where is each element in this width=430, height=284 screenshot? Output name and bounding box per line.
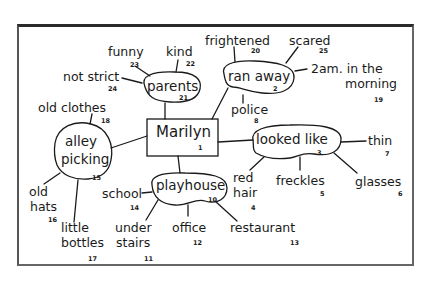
leaf-restaurant: restaurant	[230, 221, 295, 234]
leaf-glasses: glasses	[355, 175, 401, 188]
leaf-under-stairs-line1: under	[115, 221, 152, 234]
leaf-scared: scared	[289, 34, 331, 47]
leaf-thin: thin	[368, 134, 392, 147]
leaf-old-clothes-number: 18	[101, 118, 110, 125]
node-alley-picking-number: 15	[92, 175, 101, 182]
leaf-2am-number: 19	[374, 97, 383, 104]
leaf-2am-line2: morning	[345, 77, 397, 90]
leaf-school-number: 14	[130, 205, 139, 212]
leaf-little-bottles-line1: little	[61, 221, 89, 234]
node-alley-picking-line2: picking	[61, 153, 109, 166]
leaf-little-bottles-number: 17	[88, 256, 97, 263]
leaf-old-hats-line1: old	[29, 185, 48, 198]
leaf-old-hats-line2: hats	[30, 200, 57, 213]
leaf-under-stairs-line2: stairs	[116, 236, 150, 249]
leaf-scared-number: 25	[319, 48, 328, 55]
leaf-kind-number: 22	[186, 61, 195, 68]
leaf-funny-number: 23	[130, 62, 139, 69]
center-label: Marilyn	[156, 126, 211, 139]
node-playhouse-label: playhouse	[156, 179, 225, 192]
leaf-little-bottles-line2: bottles	[61, 236, 104, 249]
node-ran-away-number: 2	[273, 86, 278, 93]
leaf-office: office	[172, 221, 206, 234]
leaf-frightened: frightened	[205, 34, 270, 47]
leaf-old-clothes: old clothes	[38, 101, 106, 114]
leaf-freckles: freckles	[276, 174, 325, 187]
leaf-under-stairs-number: 11	[144, 256, 153, 263]
leaf-funny: funny	[108, 45, 144, 58]
node-alley-picking-line1: alley	[65, 135, 97, 148]
leaf-police: police	[231, 103, 268, 116]
leaf-red-hair-line1: red	[233, 171, 254, 184]
leaf-old-hats-number: 16	[48, 217, 57, 224]
node-ran-away-label: ran away	[228, 70, 290, 83]
leaf-not-strict: not strict	[63, 70, 119, 83]
node-looked-like-label: looked like	[256, 133, 328, 146]
node-parents-label: parents	[147, 80, 198, 93]
leaf-freckles-number: 5	[320, 191, 325, 198]
leaf-frightened-number: 20	[251, 48, 260, 55]
node-looked-like-number: 3	[317, 150, 322, 157]
leaf-glasses-number: 6	[398, 191, 403, 198]
leaf-not-strict-number: 24	[108, 86, 117, 93]
leaf-police-number: 8	[254, 118, 259, 125]
leaf-restaurant-number: 13	[290, 240, 299, 247]
leaf-red-hair-line2: hair	[233, 186, 257, 199]
leaf-school: school	[102, 187, 142, 200]
leaf-red-hair-number: 4	[251, 205, 256, 212]
leaf-office-number: 12	[193, 240, 202, 247]
leaf-kind: kind	[166, 45, 193, 58]
center-number: 1	[198, 145, 203, 152]
node-parents-number: 21	[179, 95, 188, 102]
node-playhouse-number: 10	[208, 197, 217, 204]
leaf-thin-number: 7	[385, 151, 390, 158]
leaf-2am-line1: 2am. in the	[311, 62, 383, 75]
